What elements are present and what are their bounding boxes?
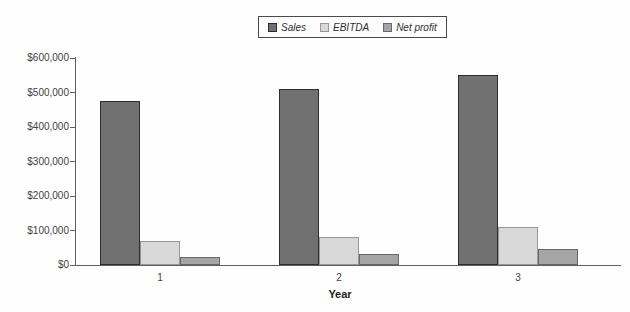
y-tick-label: $300,000 [0, 156, 69, 168]
sales-swatch-icon [268, 23, 277, 32]
y-tick-label: $600,000 [0, 52, 69, 64]
y-axis-line [75, 57, 76, 265]
y-tick-label: $0 [0, 259, 69, 271]
x-category-label: 2 [319, 272, 359, 283]
bar-net-profit-year-1 [180, 257, 220, 265]
y-tick-label: $200,000 [0, 190, 69, 202]
legend-label-net-profit: Net profit [396, 22, 437, 33]
bar-sales-year-2 [279, 89, 319, 265]
bar-ebitda-year-3 [498, 227, 538, 265]
x-axis-title: Year [75, 288, 605, 300]
x-category-label: 3 [498, 272, 538, 283]
legend-item-ebitda: EBITDA [320, 22, 369, 33]
bar-group-year-3 [458, 75, 578, 265]
x-axis-line [75, 265, 621, 266]
y-tick-mark [70, 92, 75, 93]
legend-label-ebitda: EBITDA [333, 22, 369, 33]
y-tick-mark [70, 161, 75, 162]
y-tick-mark [70, 58, 75, 59]
bar-group-year-1 [100, 101, 220, 265]
bar-net-profit-year-2 [359, 254, 399, 265]
y-tick-mark [70, 127, 75, 128]
x-category-label: 1 [140, 272, 180, 283]
bar-sales-year-3 [458, 75, 498, 265]
bar-chart-figure: Sales EBITDA Net profit $0$100,000$200,0… [0, 0, 630, 312]
y-tick-label: $400,000 [0, 121, 69, 133]
y-tick-mark [70, 265, 75, 266]
legend-label-sales: Sales [281, 22, 306, 33]
net-profit-swatch-icon [383, 23, 392, 32]
y-tick-label: $100,000 [0, 225, 69, 237]
bar-net-profit-year-3 [538, 249, 578, 265]
bar-group-year-2 [279, 89, 399, 265]
bar-ebitda-year-2 [319, 237, 359, 265]
chart-legend: Sales EBITDA Net profit [258, 16, 447, 38]
bar-sales-year-1 [100, 101, 140, 265]
ebitda-swatch-icon [320, 23, 329, 32]
legend-item-net-profit: Net profit [383, 22, 437, 33]
bar-ebitda-year-1 [140, 241, 180, 265]
y-tick-mark [70, 196, 75, 197]
y-tick-label: $500,000 [0, 87, 69, 99]
y-tick-mark [70, 230, 75, 231]
legend-item-sales: Sales [268, 22, 306, 33]
